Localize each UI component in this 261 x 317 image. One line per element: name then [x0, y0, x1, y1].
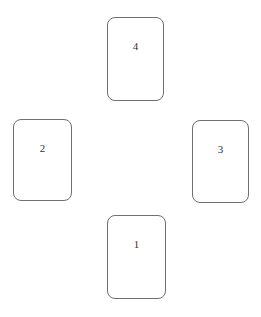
- card-number-label: 4: [108, 40, 163, 52]
- card-number-label: 1: [108, 238, 165, 250]
- card-position-3: 3: [192, 120, 249, 203]
- card-position-1: 1: [107, 215, 166, 299]
- card-position-4: 4: [107, 17, 164, 101]
- card-number-label: 2: [14, 142, 71, 154]
- card-number-label: 3: [193, 143, 248, 155]
- card-position-2: 2: [13, 119, 72, 201]
